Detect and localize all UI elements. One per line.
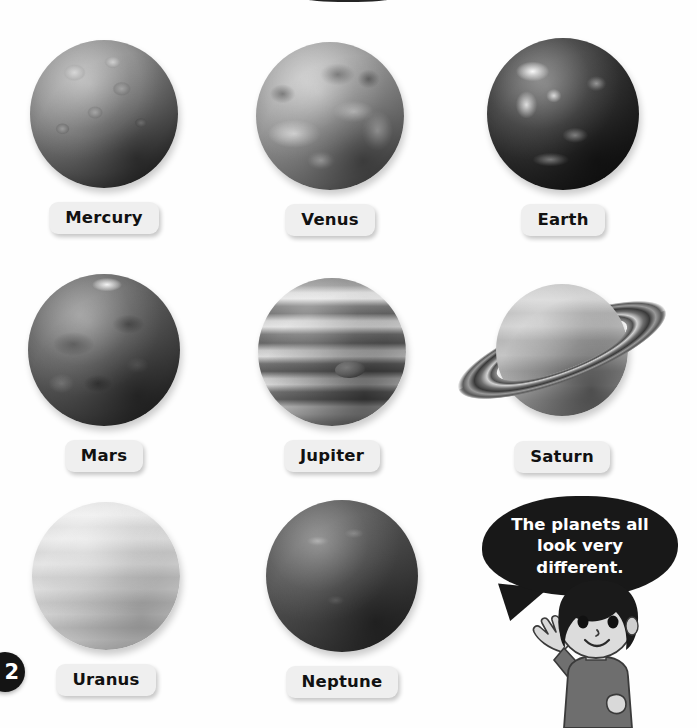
textbook-page: Mercury Venus Earth Mars Jupiter: [0, 0, 697, 728]
boy-right-hand: [607, 694, 626, 713]
planet-cell-neptune[interactable]: Neptune: [266, 500, 418, 698]
great-red-spot: [334, 360, 365, 379]
saturn-art: [452, 262, 672, 437]
planet-label-earth[interactable]: Earth: [521, 204, 604, 236]
planet-cell-venus[interactable]: Venus: [256, 42, 404, 236]
boy-right-eye: [608, 616, 619, 629]
mars-planet-icon: [28, 274, 180, 426]
venus-planet-icon: [256, 42, 404, 190]
neptune-art: [266, 500, 418, 652]
boy-shirt: [564, 656, 632, 728]
speech-bubble-line-2: look very different.: [494, 535, 666, 577]
jupiter-art: [258, 278, 406, 426]
earth-planet-icon: [487, 38, 639, 190]
planet-cell-jupiter[interactable]: Jupiter: [258, 278, 406, 472]
planet-cell-saturn[interactable]: Saturn: [452, 262, 672, 473]
planet-cell-earth[interactable]: Earth: [487, 38, 639, 236]
uranus-planet-icon: [32, 502, 180, 650]
venus-art: [256, 42, 404, 190]
speech-bubble-line-1: The planets all: [511, 514, 648, 535]
planet-label-neptune[interactable]: Neptune: [286, 666, 399, 698]
boy-ear: [626, 617, 638, 635]
neptune-planet-icon: [266, 500, 418, 652]
mercury-art: [30, 40, 178, 188]
boy-svg: [498, 578, 678, 728]
page-number-badge: 2: [0, 652, 25, 692]
planet-cell-mars[interactable]: Mars: [28, 274, 180, 472]
mars-art: [28, 274, 180, 426]
planet-label-mars[interactable]: Mars: [65, 440, 143, 472]
planet-label-saturn[interactable]: Saturn: [514, 441, 610, 473]
planet-label-mercury[interactable]: Mercury: [49, 202, 159, 234]
saturn-assembly: [452, 262, 672, 437]
planet-label-uranus[interactable]: Uranus: [56, 664, 155, 696]
mercury-planet-icon: [30, 40, 178, 188]
planet-label-jupiter[interactable]: Jupiter: [284, 440, 380, 472]
boy-left-eye: [578, 616, 589, 629]
planet-cell-uranus[interactable]: Uranus: [32, 502, 180, 696]
cartoon-boy-illustration: [498, 578, 678, 728]
uranus-art: [32, 502, 180, 650]
planet-label-venus[interactable]: Venus: [285, 204, 374, 236]
planet-cell-mercury[interactable]: Mercury: [30, 40, 178, 234]
cutoff-heading-sliver: [300, 0, 396, 2]
jupiter-planet-icon: [258, 278, 406, 426]
page-number-value: 2: [4, 660, 19, 684]
earth-art: [487, 38, 639, 190]
